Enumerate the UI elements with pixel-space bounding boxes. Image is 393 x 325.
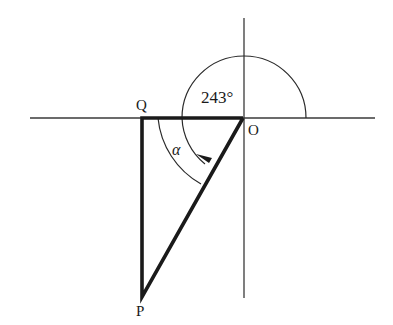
label-O: O — [248, 122, 259, 138]
triangle-OQP — [142, 118, 243, 297]
label-bearing-angle: 243° — [201, 88, 233, 107]
label-Q: Q — [136, 97, 147, 113]
label-alpha: α — [172, 141, 181, 158]
label-P: P — [136, 303, 144, 319]
bearing-diagram: Q O P 243° α — [0, 0, 393, 325]
